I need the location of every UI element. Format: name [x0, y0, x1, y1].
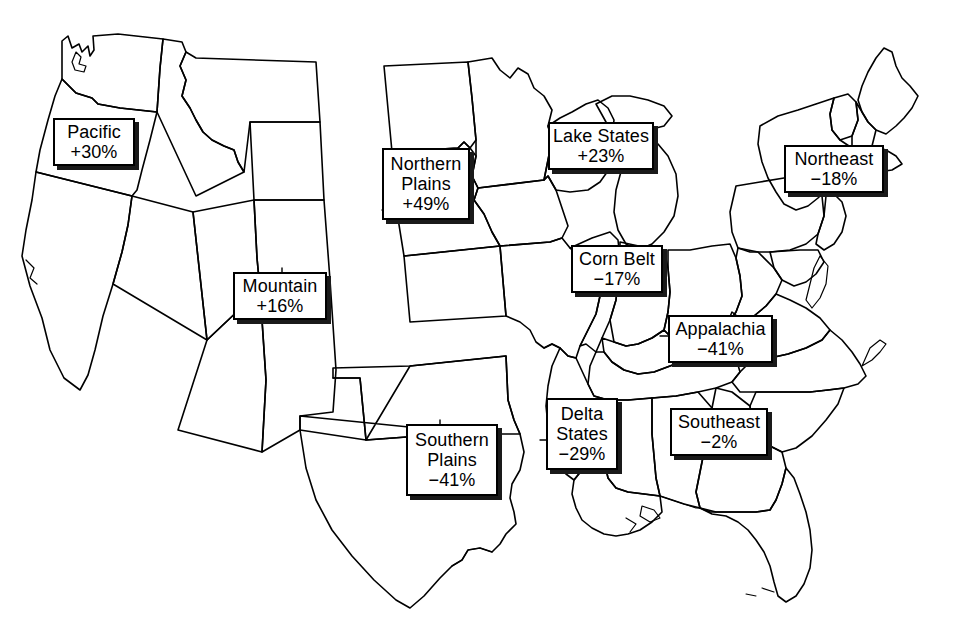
region-label-northeast[interactable]: Northeast −18%	[784, 145, 884, 193]
region-value-appalachia: −41%	[697, 339, 744, 359]
region-name-mountain: Mountain	[243, 276, 318, 296]
state-minnesota	[468, 58, 552, 188]
region-label-delta-states[interactable]: Delta States −29%	[546, 398, 618, 470]
state-maryland	[770, 250, 824, 286]
region-value-southern-plains: −41%	[429, 470, 476, 490]
region-name-appalachia: Appalachia	[675, 319, 765, 339]
region-name-southern-plains-line1: Southern	[415, 430, 489, 450]
state-iowa	[474, 176, 568, 246]
region-name-delta-states-line1: Delta	[561, 404, 604, 424]
region-name-northern-plains-line1: Northern	[391, 154, 462, 174]
region-label-pacific[interactable]: Pacific +30%	[53, 118, 135, 166]
delmarva-peninsula	[806, 256, 828, 308]
florida-keys-detail	[746, 588, 774, 596]
us-region-map: Pacific +30% Northern Plains +49% Lake S…	[0, 0, 957, 621]
outer-banks-detail	[862, 340, 886, 366]
region-name-southern-plains-line2: Plains	[427, 450, 477, 470]
region-value-lake-states: +23%	[578, 146, 625, 166]
state-washington	[62, 34, 163, 112]
region-label-appalachia[interactable]: Appalachia −41%	[668, 315, 773, 363]
region-name-southeast: Southeast	[678, 412, 760, 432]
region-value-mountain: +16%	[257, 296, 304, 316]
us-state-outlines	[0, 0, 957, 621]
region-name-lake-states: Lake States	[553, 126, 649, 146]
region-value-pacific: +30%	[71, 142, 118, 162]
region-label-lake-states[interactable]: Lake States +23%	[548, 122, 654, 170]
state-louisiana	[572, 460, 662, 536]
region-value-delta-states: −29%	[559, 444, 606, 464]
state-wyoming	[250, 122, 324, 200]
region-label-corn-belt[interactable]: Corn Belt −17%	[571, 245, 663, 293]
california-coast-detail	[26, 260, 37, 284]
region-value-northern-plains: +49%	[403, 194, 450, 214]
state-north-dakota	[384, 62, 476, 152]
region-value-corn-belt: −17%	[594, 269, 641, 289]
state-idaho	[157, 39, 244, 196]
region-name-northern-plains-line2: Plains	[401, 174, 451, 194]
state-florida	[700, 468, 812, 602]
state-new-jersey	[816, 194, 846, 250]
region-name-delta-states-line2: States	[556, 424, 608, 444]
region-value-northeast: −18%	[811, 169, 858, 189]
region-name-pacific: Pacific	[67, 122, 121, 142]
state-california	[22, 172, 132, 390]
state-montana	[180, 52, 320, 172]
region-name-corn-belt: Corn Belt	[579, 249, 655, 269]
region-name-northeast: Northeast	[795, 149, 874, 169]
puget-sound-detail	[72, 52, 86, 72]
arkansas-west-border	[544, 344, 560, 348]
region-label-southeast[interactable]: Southeast −2%	[670, 408, 768, 456]
region-label-southern-plains[interactable]: Southern Plains −41%	[406, 424, 498, 496]
region-label-mountain[interactable]: Mountain +16%	[233, 272, 327, 320]
region-label-northern-plains[interactable]: Northern Plains +49%	[382, 148, 470, 220]
region-value-southeast: −2%	[701, 432, 738, 452]
state-kansas	[404, 246, 506, 322]
